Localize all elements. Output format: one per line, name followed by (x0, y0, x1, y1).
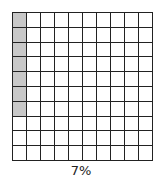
grid-cell (27, 13, 41, 28)
grid-cell (69, 13, 83, 28)
grid-cell (125, 146, 139, 161)
grid-cell-shaded (13, 102, 27, 117)
grid-cell (97, 43, 111, 58)
grid-cell (125, 43, 139, 58)
grid-cell (111, 28, 125, 43)
grid-cell (111, 117, 125, 132)
grid-cell (97, 72, 111, 87)
grid-cell (55, 117, 69, 132)
grid-cell (27, 117, 41, 132)
grid-cell (41, 43, 55, 58)
grid-cell (97, 131, 111, 146)
grid-cell (27, 72, 41, 87)
grid-cell (41, 57, 55, 72)
grid-cell (125, 72, 139, 87)
grid-cell (139, 57, 153, 72)
grid-cell (55, 43, 69, 58)
grid-cell (69, 146, 83, 161)
grid-cell (125, 28, 139, 43)
grid-cell (69, 57, 83, 72)
grid-cell (83, 146, 97, 161)
grid-cell (69, 43, 83, 58)
grid-cell (69, 102, 83, 117)
grid-cell (41, 131, 55, 146)
grid-cell (139, 43, 153, 58)
grid-cell-shaded (13, 43, 27, 58)
grid-cell (83, 117, 97, 132)
grid-cell (139, 102, 153, 117)
grid-cell (27, 43, 41, 58)
grid-cell (83, 43, 97, 58)
grid-cell (97, 57, 111, 72)
grid-cell (139, 146, 153, 161)
grid-cell (83, 72, 97, 87)
grid-cell (55, 28, 69, 43)
grid-cell (111, 131, 125, 146)
grid-cell (13, 146, 27, 161)
grid-cell (83, 102, 97, 117)
grid-cell (111, 13, 125, 28)
grid-cell (139, 28, 153, 43)
grid-cell (41, 13, 55, 28)
grid-cell (69, 28, 83, 43)
grid-cell (83, 28, 97, 43)
grid-cell (125, 102, 139, 117)
grid-cell (69, 117, 83, 132)
grid-cell (41, 72, 55, 87)
grid-cell (97, 13, 111, 28)
grid-cell (41, 102, 55, 117)
grid-cell (97, 28, 111, 43)
grid-cell (97, 117, 111, 132)
grid-cell (83, 87, 97, 102)
grid-cell (13, 117, 27, 132)
grid-cell (97, 102, 111, 117)
grid-cell (41, 87, 55, 102)
grid-cell (97, 87, 111, 102)
grid-cell (13, 131, 27, 146)
grid-cell (69, 131, 83, 146)
grid-cell (69, 72, 83, 87)
grid-cell (41, 117, 55, 132)
grid-cell-shaded (13, 28, 27, 43)
grid-cell (27, 87, 41, 102)
hundred-grid (12, 12, 153, 161)
grid-cell-shaded (13, 72, 27, 87)
grid-cell (27, 57, 41, 72)
grid-cell (125, 131, 139, 146)
grid-cell (41, 28, 55, 43)
grid-cell (139, 131, 153, 146)
grid-cell (55, 57, 69, 72)
grid-cell (27, 102, 41, 117)
percent-label: 7% (0, 163, 162, 178)
grid-cell (83, 131, 97, 146)
grid-cell (111, 57, 125, 72)
grid-cell (125, 87, 139, 102)
grid-cell (111, 146, 125, 161)
grid-cell (111, 72, 125, 87)
grid-cell (55, 102, 69, 117)
grid-cell (55, 87, 69, 102)
grid-cell (139, 87, 153, 102)
grid-cell-shaded (13, 57, 27, 72)
grid-cell (125, 13, 139, 28)
grid-cell (69, 87, 83, 102)
grid-cell (139, 13, 153, 28)
grid-cell (55, 13, 69, 28)
grid-cell (83, 57, 97, 72)
grid-cell (111, 43, 125, 58)
grid-cell (27, 28, 41, 43)
grid-cell (55, 131, 69, 146)
grid-cell (55, 146, 69, 161)
grid-cell-shaded (13, 13, 27, 28)
grid-cell (111, 102, 125, 117)
grid-cell-shaded (13, 87, 27, 102)
grid-cell (125, 117, 139, 132)
grid-cell (27, 131, 41, 146)
grid-cell (83, 13, 97, 28)
grid-cell (139, 72, 153, 87)
grid-cell (97, 146, 111, 161)
grid-cell (41, 146, 55, 161)
grid-cell (125, 57, 139, 72)
grid-cell (55, 72, 69, 87)
grid-cell (27, 146, 41, 161)
